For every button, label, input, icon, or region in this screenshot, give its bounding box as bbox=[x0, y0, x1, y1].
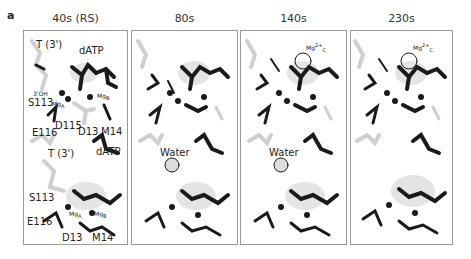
label-datp-bottom: dATP bbox=[96, 147, 121, 157]
label-mgb-bottom: MgB bbox=[94, 211, 106, 219]
label-water: Water bbox=[269, 148, 299, 158]
panel-40s: T (3') dATP 3'OH S113 MgA MgB E116 D115 … bbox=[23, 30, 128, 245]
label-mgc: Mg2+C bbox=[306, 43, 326, 53]
label-datp-top: dATP bbox=[79, 46, 104, 56]
label-mgc: Mg2+C bbox=[413, 43, 433, 53]
molecular-structure-image bbox=[241, 31, 348, 246]
label-t3-top: T (3') bbox=[36, 40, 62, 50]
label-mga-top: MgA bbox=[52, 101, 64, 109]
column-title-80s: 80s bbox=[131, 12, 238, 25]
panel-80s: Water bbox=[131, 30, 238, 245]
column-title-230s: 230s bbox=[350, 12, 453, 25]
label-t3-bottom: T (3') bbox=[48, 149, 74, 159]
label-s113-bottom: S113 bbox=[29, 193, 54, 203]
label-e116-top: E116 bbox=[32, 128, 57, 138]
panel-230s: Mg2+C bbox=[350, 30, 453, 245]
figure-panel-letter: a bbox=[7, 9, 14, 22]
column-title-40s: 40s (RS) bbox=[23, 12, 128, 25]
molecular-structure-image bbox=[351, 31, 454, 246]
label-mgb-top: MgB bbox=[97, 93, 109, 101]
panel-140s: Mg2+C Water bbox=[240, 30, 347, 245]
label-mga-bottom: MgA bbox=[69, 211, 81, 219]
label-d13-top: D13 bbox=[78, 127, 98, 137]
label-m14-top: M14 bbox=[101, 127, 122, 137]
label-e116-bottom: E116 bbox=[27, 217, 52, 227]
molecular-structure-image bbox=[132, 31, 239, 246]
label-d13-bottom: D13 bbox=[62, 233, 82, 243]
label-s113-top: S113 bbox=[28, 98, 53, 108]
label-m14-bottom: M14 bbox=[92, 233, 113, 243]
column-title-140s: 140s bbox=[240, 12, 347, 25]
label-water: Water bbox=[160, 148, 190, 158]
